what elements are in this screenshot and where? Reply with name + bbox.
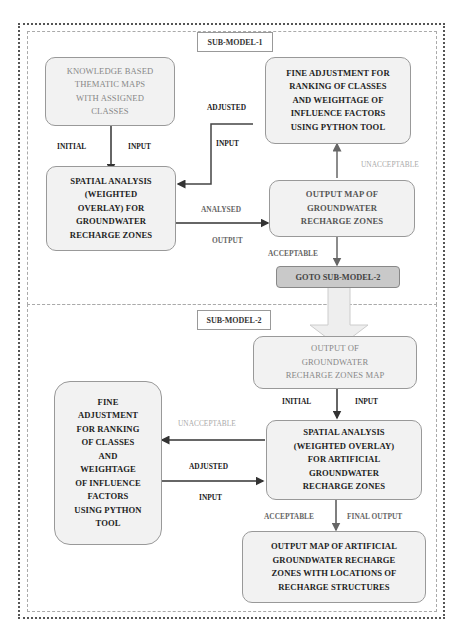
edge-label-unacceptable: UNACCEPTABLE xyxy=(361,160,419,169)
edge-label-acceptable-2: ACCEPTABLE xyxy=(264,512,314,521)
node-output-groundwater-map: OUTPUT OF GROUNDWATER RECHARGE ZONES MAP xyxy=(253,336,417,389)
edge-label-adjusted-input-2: INPUT xyxy=(199,493,222,502)
node-spatial-analysis-2: SPATIAL ANALYSIS (WEIGHTED OVERLAY) FOR … xyxy=(266,420,422,500)
node-knowledge-based-thematic-maps: KNOWLEDGE BASED THEMATIC MAPS WITH ASSIG… xyxy=(45,57,175,126)
node-output-map-groundwater: OUTPUT MAP OF GROUNDWATER RECHARGE ZONES xyxy=(269,180,415,237)
node-fine-adjustment-2: FINE ADJUSTMENT FOR RANKING OF CLASSES A… xyxy=(54,381,162,545)
edge-label-adjusted: ADJUSTED xyxy=(207,103,246,112)
node-final-output-map: OUTPUT MAP OF ARTIFICIAL GROUNDWATER REC… xyxy=(242,531,426,603)
edge-label-final-output: FINAL OUTPUT xyxy=(347,512,402,521)
edge-label-initial-2: INITIAL xyxy=(282,397,311,406)
edge-label-adjusted-2: ADJUSTED xyxy=(189,462,228,471)
edge-label-output: OUTPUT xyxy=(212,236,243,245)
goto-submodel-2: GOTO SUB-MODEL-2 xyxy=(276,266,400,288)
submodel-2-title: SUB-MODEL-2 xyxy=(197,310,271,330)
edge-label-analysed: ANALYSED xyxy=(201,205,241,214)
node-fine-adjustment-1: FINE ADJUSTMENT FOR RANKING OF CLASSES A… xyxy=(265,57,411,144)
submodel-1-title: SUB-MODEL-1 xyxy=(197,32,273,52)
node-spatial-analysis-1: SPATIAL ANALYSIS (WEIGHTED OVERLAY) FOR … xyxy=(46,166,176,251)
edge-label-unacceptable-2: UNACCEPTABLE xyxy=(178,419,236,428)
edge-label-initial: INITIAL xyxy=(57,142,86,151)
edge-label-input-2: INPUT xyxy=(355,397,378,406)
edge-label-input: INPUT xyxy=(128,142,151,151)
edge-label-adjusted-input: INPUT xyxy=(216,139,239,148)
edge-label-acceptable: ACCEPTABLE xyxy=(268,249,318,258)
